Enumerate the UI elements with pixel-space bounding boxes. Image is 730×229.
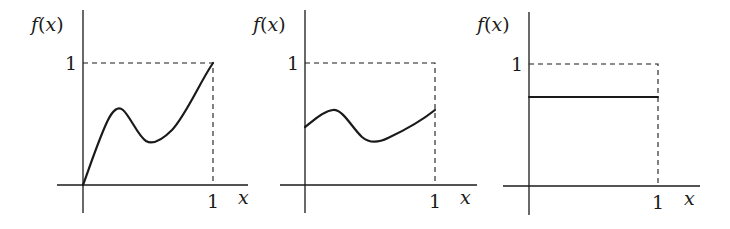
function-curve (305, 110, 435, 142)
x-axis-label: x (460, 186, 471, 208)
y-tick-1: 1 (511, 53, 523, 75)
y-axis-label: f(x) (251, 13, 286, 35)
unit-box (83, 63, 213, 185)
x-tick-1: 1 (429, 190, 441, 212)
panel-2: f(x) 1 1 x (251, 10, 477, 213)
x-axis-label: x (238, 186, 249, 208)
x-tick-1: 1 (207, 190, 219, 212)
x-axis-label: x (684, 187, 695, 209)
y-tick-1: 1 (287, 52, 299, 74)
y-axis-label: f(x) (29, 13, 64, 35)
figure: f(x) 1 1 x f(x) 1 1 x f(x) 1 1 x (0, 0, 730, 229)
y-axis-label: f(x) (475, 13, 510, 35)
panel-1: f(x) 1 1 x (29, 10, 249, 213)
function-curve (83, 63, 213, 185)
unit-box (529, 64, 658, 186)
y-tick-1: 1 (65, 52, 77, 74)
panel-3: f(x) 1 1 x (475, 12, 700, 215)
x-tick-1: 1 (652, 191, 664, 213)
